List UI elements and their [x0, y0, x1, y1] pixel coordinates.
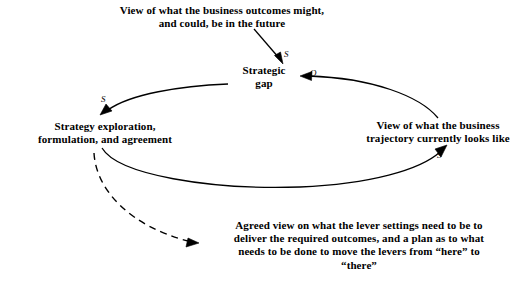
- link-outcomes-to-gap: [254, 29, 283, 64]
- link-trajectory-to-gap: [300, 72, 438, 119]
- node-trajectory-view: View of what the business trajectory cur…: [358, 119, 518, 145]
- node-agreed-view: Agreed view on what the lever settings n…: [196, 219, 522, 272]
- link-strategy-to-agreed: [94, 153, 199, 247]
- node-outcomes-view: View of what the business outcomes might…: [74, 4, 370, 30]
- node-strategy-exploration: Strategy exploration, formulation, and a…: [16, 120, 194, 146]
- polarity-label-upper-left-s: S: [101, 95, 106, 104]
- diagram-canvas: View of what the business outcomes might…: [0, 0, 528, 288]
- polarity-label-top-s: S: [284, 50, 289, 59]
- polarity-label-upper-right-o: O: [310, 69, 317, 78]
- node-strategic-gap: Strategic gap: [214, 64, 314, 90]
- polarity-label-lower-right-s: S: [437, 151, 442, 160]
- link-gap-to-strategy: [100, 84, 228, 115]
- link-strategy-to-trajectory: [102, 145, 447, 187]
